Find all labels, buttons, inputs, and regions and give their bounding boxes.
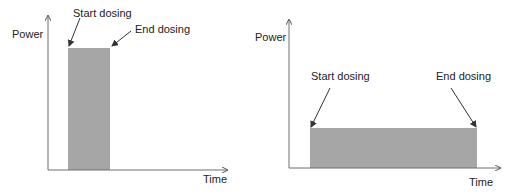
x-axis-label: Time [469,176,493,188]
right-diagram-graphic [255,0,510,196]
y-axis-label: Power [12,28,43,40]
end-dosing-label: End dosing [135,23,190,35]
start-pointer-arrow [69,18,80,46]
end-pointer-arrow [451,88,476,127]
start-dosing-label: Start dosing [311,70,370,82]
end-pointer-arrow [112,31,131,46]
start-dosing-label: Start dosing [73,7,132,19]
dose-rectangle [310,128,477,168]
end-dosing-label: End dosing [436,70,491,82]
y-axis-label: Power [255,31,286,43]
diagram-short-high-dose: Power Start dosing End dosing Time [0,0,255,196]
dose-rectangle [68,48,110,170]
x-axis-label: Time [203,173,227,185]
start-pointer-arrow [311,88,330,127]
diagram-long-low-dose: Power Start dosing End dosing Time [255,0,510,196]
